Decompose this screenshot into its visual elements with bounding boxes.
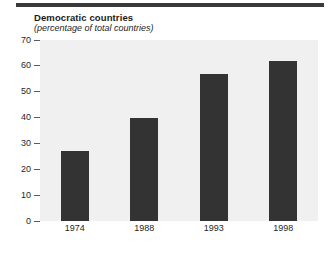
y-axis-tick-label: 10 [21, 190, 31, 201]
y-axis-tick-label: 50 [21, 86, 31, 97]
top-rule-divider [16, 3, 324, 7]
y-axis-tick-label: 40 [21, 112, 31, 123]
y-axis-tick-label: 20 [21, 164, 31, 175]
y-axis-tick: 40 [0, 112, 40, 123]
bars-container [40, 40, 318, 221]
y-axis-tick: 20 [0, 164, 40, 175]
x-axis-tick-label: 1998 [253, 223, 313, 233]
bar [200, 74, 228, 221]
chart-title: Democratic countries [34, 12, 133, 23]
bar [269, 61, 297, 221]
y-axis-tick: 60 [0, 60, 40, 71]
y-axis-tick-label: 70 [21, 35, 31, 46]
chart-subtitle: (percentage of total countries) [34, 23, 154, 33]
bar [61, 151, 89, 221]
y-axis-tick: 10 [0, 190, 40, 201]
chart-figure: Democratic countries (percentage of tota… [0, 0, 331, 253]
y-axis-tick: 50 [0, 86, 40, 97]
y-axis-tick-label: 0 [26, 216, 31, 227]
y-axis-tick: 30 [0, 138, 40, 149]
bar [130, 118, 158, 221]
y-axis-tick: 70 [0, 35, 40, 46]
y-axis: 010203040506070 [0, 34, 40, 229]
x-axis-tick-label: 1988 [114, 223, 174, 233]
x-axis: 1974198819931998 [40, 223, 318, 243]
y-axis-tick: 0 [0, 216, 40, 227]
x-axis-tick-label: 1993 [184, 223, 244, 233]
y-axis-tick-label: 60 [21, 60, 31, 71]
y-axis-tick-label: 30 [21, 138, 31, 149]
x-axis-tick-label: 1974 [45, 223, 105, 233]
